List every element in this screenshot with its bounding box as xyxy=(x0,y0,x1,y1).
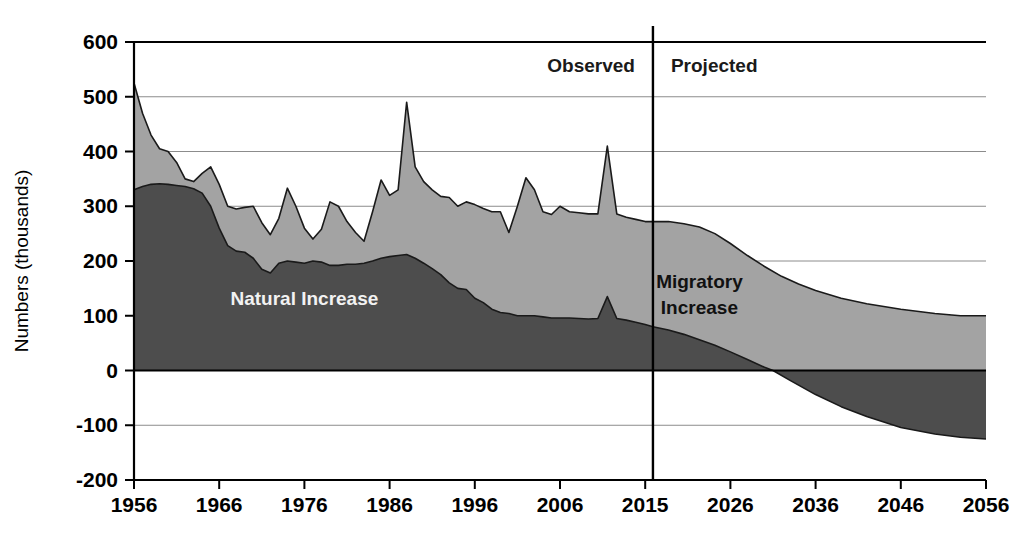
y-tick-label-600: 600 xyxy=(83,30,118,53)
y-axis-tick-labels: 6005004003002001000-100-200 xyxy=(76,30,118,491)
x-tick-label-2015: 2015 xyxy=(622,493,669,516)
projected-label: Projected xyxy=(671,55,758,76)
migratory-increase-label-line2: Increase xyxy=(661,297,738,318)
x-tick-label-1976: 1976 xyxy=(281,493,328,516)
x-tick-label-1966: 1966 xyxy=(196,493,243,516)
y-tick-label-100: 100 xyxy=(83,304,118,327)
y-tick-label-300: 300 xyxy=(83,194,118,217)
observed-label: Observed xyxy=(547,55,635,76)
natural-increase-label: Natural Increase xyxy=(230,288,378,309)
x-tick-label-1956: 1956 xyxy=(111,493,158,516)
chart-figure: 6005004003002001000-100-200 195619661976… xyxy=(0,0,1030,548)
x-tick-label-1996: 1996 xyxy=(451,493,498,516)
x-tick-label-2056: 2056 xyxy=(963,493,1010,516)
x-tick-label-2026: 2026 xyxy=(707,493,754,516)
x-tick-label-2006: 2006 xyxy=(537,493,584,516)
y-tick-label-0: 0 xyxy=(106,359,118,382)
x-tick-label-2036: 2036 xyxy=(792,493,839,516)
y-tick-label-200: 200 xyxy=(83,249,118,272)
y-axis-title: Numbers (thousands) xyxy=(11,170,32,353)
x-tick-label-2046: 2046 xyxy=(877,493,924,516)
y-tick-label--200: -200 xyxy=(76,468,118,491)
y-tick-label-500: 500 xyxy=(83,85,118,108)
x-tick-label-1986: 1986 xyxy=(366,493,413,516)
population-change-area-chart: 6005004003002001000-100-200 195619661976… xyxy=(0,0,1030,548)
migratory-increase-label-line1: Migratory xyxy=(656,271,743,292)
y-tick-label--100: -100 xyxy=(76,413,118,436)
y-tick-label-400: 400 xyxy=(83,140,118,163)
